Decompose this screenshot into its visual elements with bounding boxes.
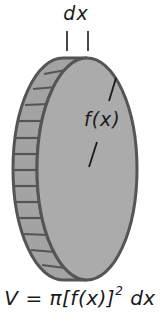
disk-method-diagram: dx f(x) V = π[f(x)]2 dx xyxy=(0,0,160,326)
formula-eq: = xyxy=(25,286,42,310)
disk-front-face xyxy=(37,58,137,280)
volume-formula: V = π[f(x)]2 dx xyxy=(0,286,160,310)
disk-illustration xyxy=(0,0,160,326)
formula-bracket: [f(x)] xyxy=(62,286,115,310)
fx-label: f(x) xyxy=(84,108,121,130)
formula-exponent: 2 xyxy=(115,284,123,298)
dx-label: dx xyxy=(60,2,92,24)
formula-tail: dx xyxy=(130,286,156,310)
formula-pi: π xyxy=(50,286,63,310)
formula-lhs: V xyxy=(4,286,18,310)
